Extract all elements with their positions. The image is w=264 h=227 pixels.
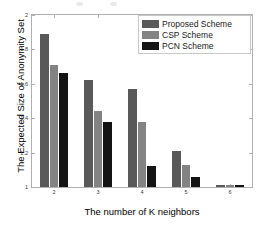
- y-axis-tick-mark: [249, 118, 252, 119]
- x-axis-tick-label: 3: [88, 189, 108, 196]
- y-axis-tick-mark: [32, 49, 35, 50]
- bar: [128, 89, 137, 187]
- bar: [226, 185, 235, 187]
- y-axis-tick-mark: [249, 153, 252, 154]
- bar: [191, 177, 200, 187]
- legend-label: CSP Scheme: [162, 30, 213, 40]
- bar: [103, 122, 112, 187]
- scan-artifact: [76, 2, 83, 6]
- bar: [147, 166, 156, 187]
- legend-item: CSP Scheme: [142, 29, 247, 40]
- x-axis-tick-mark: [98, 15, 99, 18]
- y-axis-tick-mark: [32, 118, 35, 119]
- y-axis-tick-label: 1.6: [2, 81, 28, 87]
- x-axis-tick-label: 5: [176, 189, 196, 196]
- legend-item: PCN Scheme: [142, 40, 247, 51]
- y-axis-tick-label: 1.8: [2, 46, 28, 52]
- x-axis-title: The number of K neighbors: [31, 206, 253, 217]
- legend-swatch-proposed-scheme: [142, 20, 159, 28]
- legend-swatch-csp-scheme: [142, 31, 159, 39]
- bar: [50, 65, 59, 187]
- bar: [182, 165, 191, 187]
- bar: [172, 151, 181, 187]
- y-axis-tick-label: 1.4: [2, 115, 28, 121]
- legend-item: Proposed Scheme: [142, 18, 247, 29]
- scan-artifact: [110, 2, 117, 6]
- y-axis-tick-mark: [249, 84, 252, 85]
- bar: [94, 111, 103, 187]
- chart-legend: Proposed Scheme CSP Scheme PCN Scheme: [138, 15, 251, 54]
- x-axis-tick-label: 2: [44, 189, 64, 196]
- x-axis-tick-label: 4: [132, 189, 152, 196]
- y-axis-tick-label: 1.2: [2, 150, 28, 156]
- y-axis-tick-mark: [32, 15, 35, 16]
- bar: [59, 73, 68, 187]
- y-axis-tick-mark: [249, 187, 252, 188]
- y-axis-tick-label: 1: [2, 184, 28, 190]
- y-axis-tick-label: 2: [2, 12, 28, 18]
- chart-figure: The Expected Size of Anonymity Set 11.21…: [0, 0, 264, 227]
- bar: [84, 80, 93, 187]
- bar: [235, 185, 244, 187]
- legend-label: PCN Scheme: [162, 41, 214, 51]
- y-axis-tick-mark: [32, 187, 35, 188]
- y-axis-tick-mark: [32, 153, 35, 154]
- legend-swatch-pcn-scheme: [142, 42, 159, 50]
- legend-label: Proposed Scheme: [162, 19, 232, 29]
- x-axis-tick-mark: [54, 15, 55, 18]
- y-axis-tick-mark: [32, 84, 35, 85]
- bar: [138, 122, 147, 187]
- y-axis-title: The Expected Size of Anonymity Set: [14, 2, 28, 190]
- bar: [216, 185, 225, 187]
- bar: [40, 34, 49, 187]
- x-axis-tick-label: 6: [220, 189, 240, 196]
